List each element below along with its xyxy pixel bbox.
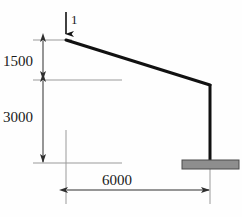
dimension-span: 6000 [67, 172, 209, 190]
dimension-height-upper: 1500 [3, 41, 43, 79]
point-load: 1 [66, 12, 78, 34]
dimension-label-1500: 1500 [3, 53, 33, 69]
dimension-label-6000: 6000 [102, 172, 132, 188]
dimension-height-lower: 3000 [3, 81, 43, 162]
load-label: 1 [71, 12, 78, 27]
frame-members [66, 40, 210, 163]
structural-frame-diagram: 1 1500 3000 6000 [0, 0, 242, 217]
fixed-support-plate [182, 160, 239, 169]
dimension-label-3000: 3000 [3, 109, 33, 125]
rafter-member [66, 40, 210, 85]
